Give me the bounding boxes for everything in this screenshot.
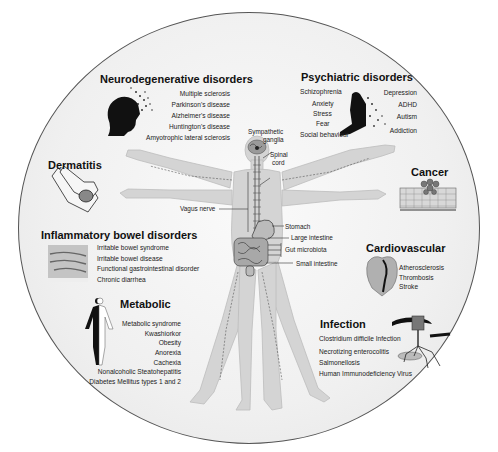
psych-item-left: Schizophrenia: [300, 89, 342, 96]
human-body-figure: [0, 0, 498, 452]
neuro-item: Alzheimer's disease: [172, 113, 230, 120]
cardio-item: Stroke: [399, 284, 418, 291]
infection-item: Salmonellosis: [319, 360, 360, 367]
label-spinal-cord-line2: cord: [272, 160, 284, 166]
metabolic-item: Cachexia: [154, 360, 182, 367]
title-cancer: Cancer: [411, 166, 448, 178]
neuro-item: Multiple sclerosis: [180, 91, 230, 98]
neuro-item: Huntington's disease: [169, 124, 230, 131]
metabolic-item: Kwashiorkor: [145, 331, 181, 338]
left-arm-raised: [126, 150, 232, 188]
head-dissolving-icon: [108, 87, 153, 136]
title-neurodegenerative: Neurodegenerative disorders: [100, 73, 253, 85]
ibd-item: Chronic diarrhea: [97, 277, 146, 284]
infection-item: Necrotizing enterocolitis: [319, 349, 389, 356]
psych-item-right: ADHD: [398, 102, 417, 109]
ibd-item: Functional gastrointestinal disorder: [97, 266, 199, 273]
label-gut-microbiota: Gut microbiota: [285, 247, 327, 253]
metabolic-item: Diabetes Mellitus types 1 and 2: [89, 379, 181, 386]
right-arm-raised: [282, 145, 395, 190]
metabolic-item: Nonalcoholic Steatohepatitis: [98, 369, 181, 376]
title-cardiovascular: Cardiovascular: [366, 242, 445, 254]
label-sympathetic-ganglia-line2: ganglia: [263, 137, 284, 143]
title-inflammatory-bowel: Inflammatory bowel disorders: [41, 229, 197, 241]
cardio-item: Thrombosis: [399, 275, 433, 282]
right-arm-horizontal: [282, 190, 386, 206]
psych-item-left: Fear: [316, 121, 330, 128]
sitting-figure-dissolving-icon: [340, 92, 386, 136]
label-large-intestine: Large intestine: [291, 235, 333, 241]
psych-item-left: Stress: [313, 111, 332, 118]
label-small-intestine: Small intestine: [296, 261, 338, 267]
title-infection: Infection: [320, 318, 366, 330]
bacteriophage-icon: [392, 316, 450, 368]
metabolic-item: Anorexia: [155, 350, 181, 357]
diagram-canvas: Sympathetic ganglia Spinal cord Vagus ne…: [0, 0, 498, 452]
body-silhouette-icon: [85, 298, 113, 365]
psych-item-left: Anxiety: [312, 101, 334, 108]
cardio-item: Atherosclerosis: [399, 265, 444, 272]
psych-item-left: Social behaviour: [300, 132, 349, 139]
psych-item-right: Autism: [397, 114, 417, 121]
abdomen-pain-icon: [48, 245, 88, 282]
title-dermatitis: Dermatitis: [48, 159, 102, 171]
ibd-item: Irritable bowel syndrome: [97, 245, 169, 252]
infection-item: Human Immunodeficiency Virus: [319, 371, 412, 378]
left-leg-straight: [236, 262, 256, 410]
psych-item-right: Depression: [384, 90, 417, 97]
ibd-item: Irritable bowel disease: [97, 256, 163, 263]
infection-item: Clostridium difficile Infection: [319, 336, 401, 343]
psych-item-right: Addiction: [390, 128, 417, 135]
label-sympathetic-ganglia-line1: Sympathetic: [248, 129, 283, 135]
left-arm-horizontal: [120, 189, 232, 205]
label-stomach: Stomach: [285, 224, 310, 230]
label-vagus-nerve: Vagus nerve: [180, 206, 215, 212]
heart-icon: [367, 257, 398, 296]
metabolic-item: Obesity: [159, 340, 181, 347]
neuro-item: Amyotrophic lateral sclerosis: [146, 135, 230, 142]
hand-rash-icon: [52, 166, 98, 212]
title-metabolic: Metabolic: [120, 298, 171, 310]
neuro-item: Parkinson's disease: [172, 102, 230, 109]
metabolic-item: Metabolic syndrome: [122, 321, 181, 328]
label-spinal-cord-line1: Spinal: [270, 152, 288, 158]
title-psychiatric: Psychiatric disorders: [301, 71, 413, 83]
tumor-tissue-icon: [400, 179, 456, 210]
